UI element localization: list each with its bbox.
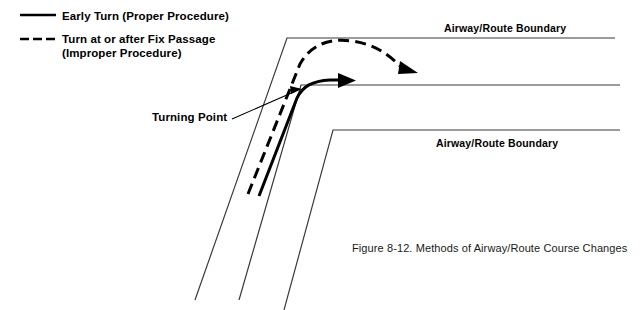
early-turn-path-solid xyxy=(259,73,356,196)
early-turn-arrowhead xyxy=(338,73,356,88)
late-turn-arrowhead xyxy=(398,61,418,74)
legend-label-early-turn: Early Turn (Proper Procedure) xyxy=(62,9,229,23)
legend-item-early-turn: Early Turn (Proper Procedure) xyxy=(62,9,229,23)
legend-label-late-turn-line2: (Improper Procedure) xyxy=(62,46,215,60)
airway-boundary-label-bottom: Airway/Route Boundary xyxy=(436,137,558,149)
late-turn-path-dashed xyxy=(248,40,418,194)
legend-label-late-turn-line1: Turn at or after Fix Passage xyxy=(62,32,215,46)
airway-boundary-middle xyxy=(239,85,620,300)
airway-boundary-label-top: Airway/Route Boundary xyxy=(444,22,566,34)
legend-item-late-turn: Turn at or after Fix Passage (Improper P… xyxy=(62,32,215,60)
airway-boundary-lower xyxy=(284,130,620,310)
turning-point-label: Turning Point xyxy=(152,111,227,123)
figure-caption: Figure 8-12. Methods of Airway/Route Cou… xyxy=(352,242,627,254)
figure-page: Early Turn (Proper Procedure) Turn at or… xyxy=(0,0,641,310)
